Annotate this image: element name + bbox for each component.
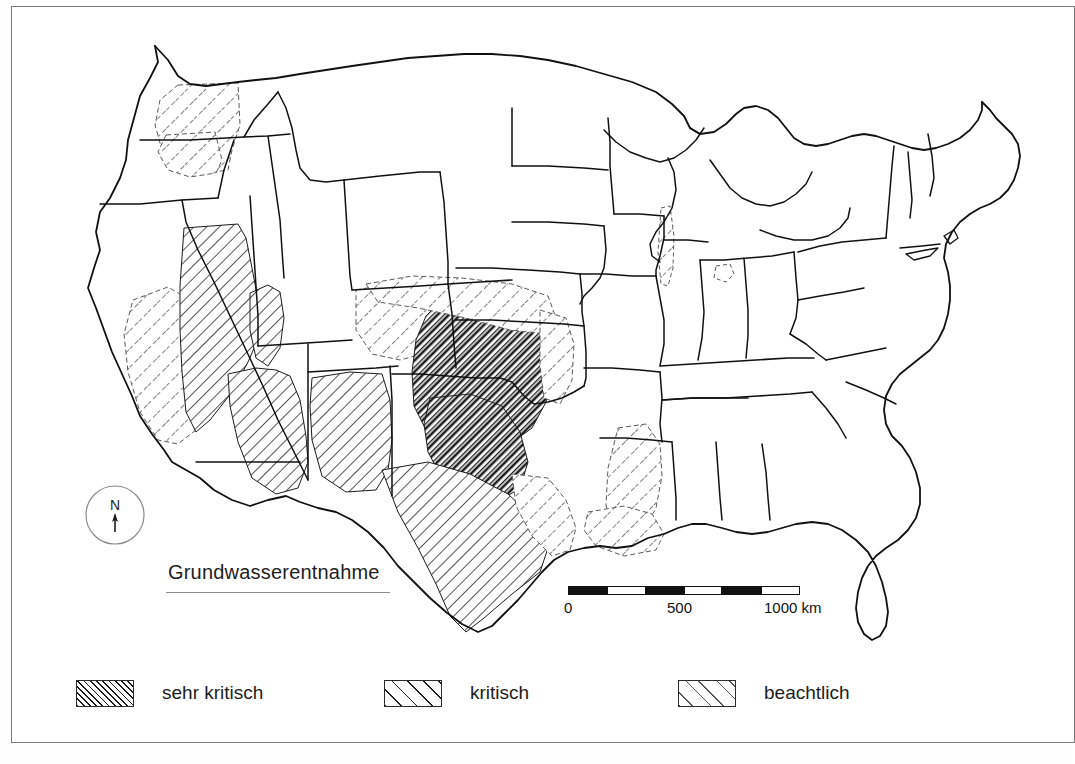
legend-swatch-sehr-kritisch bbox=[76, 680, 134, 707]
legend-label-beachtlich: beachtlich bbox=[764, 682, 850, 704]
legend-swatch-beachtlich bbox=[678, 680, 736, 707]
legend-label-kritisch: kritisch bbox=[470, 682, 529, 704]
legend-label-sehr-kritisch: sehr kritisch bbox=[162, 682, 263, 704]
legend-swatch-kritisch bbox=[384, 680, 442, 707]
